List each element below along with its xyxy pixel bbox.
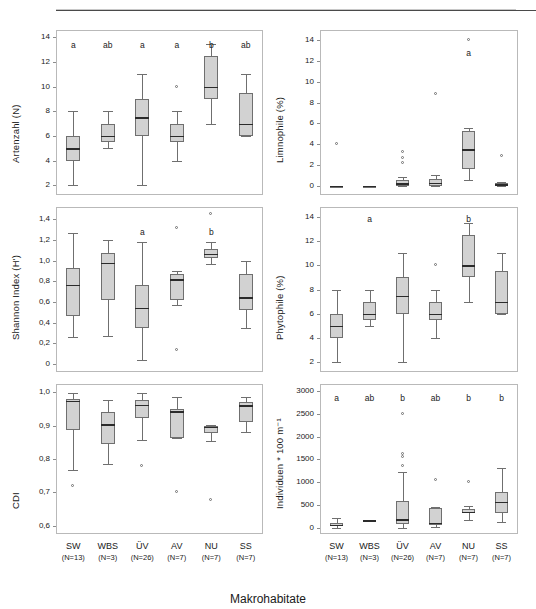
median-line	[330, 525, 344, 527]
significance-letter: a	[323, 393, 351, 403]
y-tick-mark	[317, 528, 320, 529]
y-tick-label: 3000	[286, 386, 314, 395]
whisker-cap-lower	[332, 528, 341, 529]
y-tick-label: 1500	[286, 454, 314, 463]
outlier-point	[434, 478, 437, 481]
median-line	[396, 519, 410, 521]
whisker-cap-lower	[497, 522, 506, 523]
significance-letter: b	[488, 393, 516, 403]
whisker-cap-lower	[431, 527, 440, 528]
median-line	[462, 512, 476, 514]
whisker-cap-lower	[464, 520, 473, 521]
figure-panel-grid: 2468101214Artenzahl (N)aabaabab024681012…	[0, 22, 536, 582]
plot-area-individuen	[320, 384, 518, 534]
chart-panel-individuen: 050010001500200025003000Individuen * 100…	[0, 22, 536, 582]
whisker-cap-upper	[398, 472, 407, 473]
y-tick-label: 2000	[286, 432, 314, 441]
significance-letter: b	[455, 393, 483, 403]
y-tick-label: 500	[286, 500, 314, 509]
y-tick-mark	[317, 391, 320, 392]
median-line	[495, 502, 509, 504]
whisker-upper	[502, 468, 503, 492]
box-iqr	[396, 501, 410, 524]
outlier-point	[467, 480, 470, 483]
significance-letter: ab	[422, 393, 450, 403]
median-line	[363, 520, 377, 522]
y-tick-mark	[317, 414, 320, 415]
whisker-upper	[403, 472, 404, 501]
outlier-point	[401, 412, 404, 415]
y-axis-label-individuen: Individuen * 100 m⁻¹	[274, 418, 285, 509]
whisker-lower	[502, 513, 503, 522]
significance-letter: ab	[356, 393, 384, 403]
x-axis-title: Makrohabitate	[0, 592, 536, 606]
whisker-cap-upper	[332, 518, 341, 519]
whisker-cap-upper	[497, 468, 506, 469]
y-tick-mark	[317, 505, 320, 506]
y-tick-mark	[317, 482, 320, 483]
x-tick-label-SS: SS(N=7)	[480, 541, 524, 563]
outlier-point	[401, 455, 404, 458]
median-line	[429, 523, 443, 525]
y-tick-mark	[317, 437, 320, 438]
y-tick-label: 1000	[286, 477, 314, 486]
whisker-cap-upper	[464, 506, 473, 507]
significance-letter: b	[389, 393, 417, 403]
y-tick-label: 2500	[286, 409, 314, 418]
header-rule	[56, 10, 536, 11]
y-tick-label: 0	[286, 523, 314, 532]
y-tick-mark	[317, 459, 320, 460]
whisker-cap-lower	[398, 528, 407, 529]
outlier-point	[401, 464, 404, 467]
